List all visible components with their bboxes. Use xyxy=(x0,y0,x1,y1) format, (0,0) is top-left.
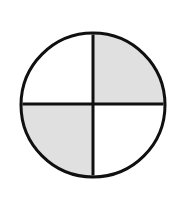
fraction-circle-diagram xyxy=(0,0,179,200)
figure-canvas xyxy=(0,0,179,200)
